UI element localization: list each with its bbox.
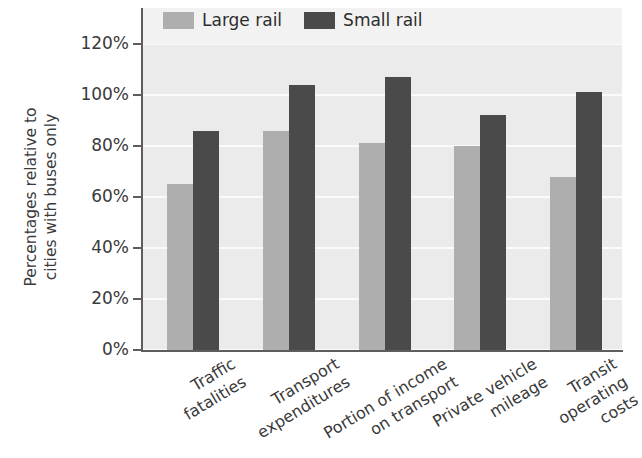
bar-small-rail bbox=[385, 77, 411, 350]
bar-small-rail bbox=[576, 92, 602, 350]
legend-swatch-icon bbox=[304, 12, 335, 29]
plot-area bbox=[143, 8, 622, 350]
x-axis-line bbox=[141, 350, 623, 352]
bar-small-rail bbox=[289, 85, 315, 350]
y-tick-label: 100% bbox=[29, 86, 129, 103]
y-tick-mark bbox=[133, 145, 141, 147]
y-tick-label: 120% bbox=[29, 35, 129, 52]
legend-item-large-rail: Large rail bbox=[163, 10, 282, 30]
bar-small-rail bbox=[193, 131, 219, 350]
y-tick-mark bbox=[133, 247, 141, 249]
y-tick-label: 60% bbox=[29, 188, 129, 205]
bar-large-rail bbox=[167, 184, 193, 350]
y-tick-label: 20% bbox=[29, 290, 129, 307]
bar-large-rail bbox=[454, 146, 480, 350]
legend-label: Small rail bbox=[343, 10, 422, 30]
bar-small-rail bbox=[480, 115, 506, 350]
bar-large-rail bbox=[263, 131, 289, 350]
chart-legend: Large railSmall rail bbox=[163, 10, 423, 30]
y-tick-mark bbox=[133, 94, 141, 96]
y-tick-mark bbox=[133, 196, 141, 198]
y-tick-mark bbox=[133, 298, 141, 300]
y-tick-label: 0% bbox=[29, 341, 129, 358]
legend-item-small-rail: Small rail bbox=[304, 10, 422, 30]
legend-swatch-icon bbox=[163, 12, 194, 29]
y-tick-label: 80% bbox=[29, 137, 129, 154]
bar-large-rail bbox=[359, 143, 385, 350]
y-tick-mark bbox=[133, 349, 141, 351]
bar-large-rail bbox=[550, 177, 576, 350]
y-tick-label: 40% bbox=[29, 239, 129, 256]
gridline bbox=[143, 94, 622, 96]
y-axis-line bbox=[141, 8, 143, 351]
legend-label: Large rail bbox=[202, 10, 282, 30]
y-tick-mark bbox=[133, 43, 141, 45]
